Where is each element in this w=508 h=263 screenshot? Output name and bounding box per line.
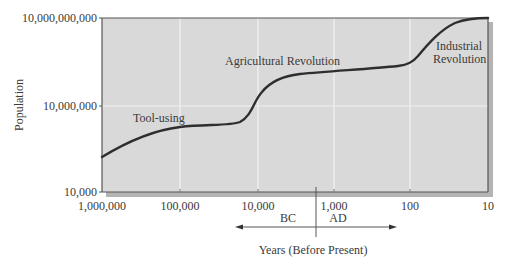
x-tick-label: 1,000,000 xyxy=(78,199,126,213)
ad-label: AD xyxy=(329,211,347,225)
y-tick-label: 10,000,000,000 xyxy=(22,11,97,25)
population-chart: Tool-using Agricultural Revolution Indus… xyxy=(0,0,508,263)
x-tick-label: 10 xyxy=(482,199,494,213)
y-tick-label: 10,000,000 xyxy=(43,99,97,113)
x-tick-label: 10,000 xyxy=(242,199,275,213)
y-axis-title: Population xyxy=(12,79,26,131)
x-tick-label: 100,000 xyxy=(161,199,200,213)
x-axis-title: Years (Before Present) xyxy=(259,243,368,257)
plot-area xyxy=(102,18,488,192)
annotation-tool-using: Tool-using xyxy=(133,111,185,125)
annotation-industrial-line1: Industrial xyxy=(436,39,483,53)
x-tick-label: 100 xyxy=(401,199,419,213)
annotation-agricultural-revolution: Agricultural Revolution xyxy=(225,54,340,68)
bc-label: BC xyxy=(280,211,296,225)
arrow-right-icon xyxy=(389,225,397,230)
annotation-industrial-line2: Revolution xyxy=(433,52,486,66)
y-tick-label: 10,000 xyxy=(64,185,97,199)
arrow-left-icon xyxy=(235,225,243,230)
